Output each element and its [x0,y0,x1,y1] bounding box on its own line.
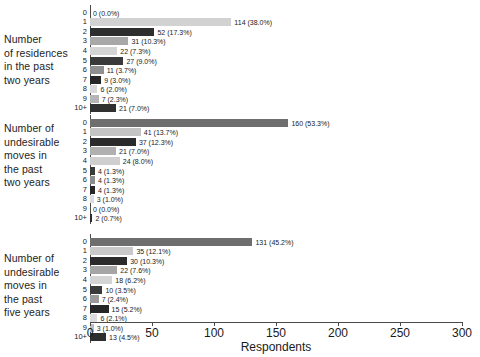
bar-value-label: 37 (12.3%) [139,138,173,145]
bar-row[interactable]: 331 (10.3%) [90,37,462,47]
category-label: 1 [83,129,87,137]
bar-row[interactable]: 74 (1.3%) [90,185,462,195]
bar[interactable] [90,176,95,184]
bar-row[interactable]: 527 (9.0%) [90,56,462,66]
bar[interactable] [90,57,123,65]
bar-row[interactable]: 10+21 (7.0%) [90,103,462,113]
bar[interactable] [90,28,154,36]
bar[interactable] [90,186,95,194]
bar[interactable] [90,95,99,103]
bar[interactable] [90,47,117,55]
bar[interactable] [90,128,141,136]
bar[interactable] [90,138,136,146]
bar-row[interactable]: 422 (7.3%) [90,46,462,56]
bar[interactable] [90,314,97,322]
x-axis-tick-label: 300 [452,327,472,339]
bar-row[interactable]: 86 (2.0%) [90,84,462,94]
bar-row[interactable]: 0160 (53.3%) [90,118,462,128]
bar-row[interactable]: 54 (1.3%) [90,166,462,176]
bar-value-label: 7 (2.3%) [102,95,128,102]
bar-row[interactable]: 90 (0.0%) [90,204,462,214]
bar-row[interactable]: 1114 (38.0%) [90,18,462,28]
bar[interactable] [90,119,288,127]
bar[interactable] [90,266,117,274]
bar-value-label: 6 (2.0%) [100,86,126,93]
category-label: 9 [83,95,87,103]
category-label: 8 [83,85,87,93]
bar-value-label: 6 (2.1%) [100,315,126,322]
bar[interactable] [90,257,127,265]
category-label: 1 [83,19,87,27]
bar-row[interactable]: 00 (0.0%) [90,8,462,18]
bar[interactable] [90,286,102,294]
bar-value-label: 52 (17.3%) [157,28,191,35]
bar-value-label: 3 (1.0%) [97,324,123,331]
category-label: 6 [83,176,87,184]
bar[interactable] [90,76,101,84]
category-label: 0 [83,119,87,127]
bar-value-label: 11 (3.7%) [107,67,137,74]
x-axis-tick-label: 250 [390,327,410,339]
bar-row[interactable]: 322 (7.6%) [90,266,462,276]
category-label: 10+ [74,214,87,222]
bar-row[interactable]: 79 (3.0%) [90,75,462,85]
category-label: 5 [83,167,87,175]
bar[interactable] [90,147,116,155]
bar-row[interactable]: 64 (1.3%) [90,175,462,185]
bar-value-label: 4 (1.3%) [98,167,124,174]
bar[interactable] [90,66,104,74]
bar-row[interactable]: 321 (7.0%) [90,147,462,157]
bar[interactable] [90,247,133,255]
bar-row[interactable]: 67 (2.4%) [90,294,462,304]
x-axis-tick-label: 100 [204,327,224,339]
bar[interactable] [90,167,95,175]
bar[interactable] [90,85,97,93]
bar[interactable] [90,295,99,303]
chart-container: Numberof residencesin the pasttwo years0… [0,0,480,357]
bar-value-label: 7 (2.4%) [102,296,128,303]
bar-row[interactable]: 83 (1.0%) [90,194,462,204]
bar-row[interactable]: 141 (13.7%) [90,128,462,138]
category-label: 3 [83,38,87,46]
bar-value-label: 35 (12.1%) [136,248,170,255]
bar[interactable] [90,238,252,246]
bar-row[interactable]: 252 (17.3%) [90,27,462,37]
category-label: 2 [83,257,87,265]
bar-value-label: 10 (3.5%) [105,286,135,293]
category-label: 3 [83,148,87,156]
group-title-line: undesirable [4,266,88,280]
bar[interactable] [90,276,112,284]
bar-value-label: 30 (10.3%) [130,257,164,264]
bar-row[interactable]: 424 (8.0%) [90,156,462,166]
bar-row[interactable]: 715 (5.2%) [90,304,462,314]
bar[interactable] [90,104,116,112]
category-label: 5 [83,286,87,294]
bar-row[interactable]: 97 (2.3%) [90,94,462,104]
bar[interactable] [90,195,94,203]
bar-row[interactable]: 10+2 (0.7%) [90,213,462,223]
bar-row[interactable]: 0131 (45.2%) [90,237,462,247]
bar-row[interactable]: 611 (3.7%) [90,65,462,75]
bar-row[interactable]: 230 (10.3%) [90,256,462,266]
category-label: 10+ [74,333,87,341]
x-axis-tick-label: 0 [87,327,94,339]
bar-row[interactable]: 418 (6.2%) [90,275,462,285]
bar-rows: 00 (0.0%)1114 (38.0%)252 (17.3%)331 (10.… [90,8,462,113]
category-label: 9 [83,205,87,213]
bar[interactable] [90,305,109,313]
bar-value-label: 114 (38.0%) [234,19,272,26]
group-title-line: Number [4,33,88,47]
group-title-line: Number of [4,122,88,136]
bar[interactable] [90,214,92,222]
bar-value-label: 0 (0.0%) [93,205,119,212]
bar-row[interactable]: 510 (3.5%) [90,285,462,295]
bar[interactable] [90,157,120,165]
bar[interactable] [90,37,128,45]
bar-row[interactable]: 135 (12.1%) [90,247,462,257]
group-title-line: five years [4,306,88,320]
category-label: 7 [83,76,87,84]
bar[interactable] [90,18,231,26]
bar-row[interactable]: 237 (12.3%) [90,137,462,147]
bar-value-label: 9 (3.0%) [104,76,130,83]
bar-value-label: 3 (1.0%) [97,196,123,203]
